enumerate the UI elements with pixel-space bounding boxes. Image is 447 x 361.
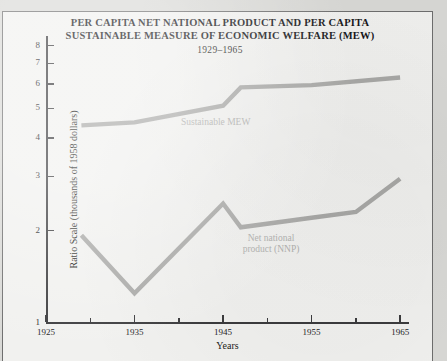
figure-page: PER CAPITA NET NATIONAL PRODUCT AND PER … bbox=[0, 0, 447, 361]
series-annotation-net-national-product: Net national product (NNP) bbox=[228, 233, 314, 255]
series-annotation-sustainable-mew: Sustainable MEW bbox=[181, 117, 250, 128]
series-annotation-nnp-line-1: Net national bbox=[228, 233, 314, 244]
series-layer bbox=[0, 0, 447, 361]
series-annotation-nnp-line-2: product (NNP) bbox=[228, 244, 314, 255]
